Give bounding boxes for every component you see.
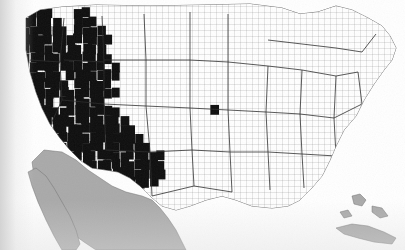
county-cell-shaded [121,116,130,126]
county-cell-shaded [103,89,111,99]
county-cell-shaded [88,61,97,71]
county-cell-shaded [14,124,23,134]
county-cell-shaded [98,26,106,36]
county-cell-shaded [103,159,111,169]
county-cell-shaded [35,44,44,54]
county-cell-shaded [88,52,96,62]
county-cell-shaded [104,54,112,64]
county-cell-shaded [141,178,149,188]
county-cell-shaded [95,105,104,115]
county-cell-shaded [8,125,16,135]
county-cell-shaded [141,169,149,179]
county-cell-shaded [52,79,60,89]
county-cell-shaded [112,159,121,169]
county-cell-shaded [88,161,97,171]
bahamas-islands [352,194,366,206]
county-cell-shaded [8,106,17,116]
county-cell-shaded [15,60,23,70]
county-cell-shaded [38,116,47,126]
county-cell-shaded [13,115,21,125]
county-cell-shaded [43,26,52,36]
county-cell-shaded [112,133,121,143]
county-cell-shaded [38,141,47,151]
county-cell-shaded [44,35,52,45]
county-cell-shaded [21,70,29,80]
county-cell-shaded [135,134,143,144]
county-cell-shaded [113,167,121,177]
county-cell-shaded [22,150,30,160]
county-cell-shaded [82,134,90,144]
county-cell-shaded [58,123,66,133]
county-cell-shaded [66,61,74,71]
county-cell-shaded [20,79,28,89]
county-cell-shaded [23,98,31,108]
county-cell-shaded [23,107,31,117]
county-cell-shaded [88,71,96,81]
bahamas-islands-3 [340,210,352,218]
county-cell-shaded [43,125,51,135]
cuba-landmass [336,224,396,244]
county-cell-shaded [29,26,38,36]
county-cell-shaded [111,114,119,124]
county-cell-shaded [21,34,30,44]
county-cell-shaded [22,115,31,125]
county-cell-shaded [37,125,45,135]
county-cell-shaded [15,70,24,80]
county-cell-shaded [29,96,38,106]
county-cell-shaded [88,35,97,45]
county-cell-shaded [81,114,89,124]
county-cell-shaded [14,81,23,91]
county-cell-shaded [59,132,67,142]
county-cell-shaded [20,170,29,180]
county-cell-shaded [66,70,75,80]
county-cell-shaded [126,141,134,151]
county-cell-shaded [22,87,31,97]
county-cell-shaded [66,106,74,116]
county-cell-shaded [127,125,135,135]
county-cell-shaded [119,177,128,187]
county-cell-shaded [74,9,83,19]
county-cell-shaded [15,151,24,161]
county-cell-shaded [81,123,89,133]
county-cell-shaded [14,141,22,151]
county-cell-shaded [134,160,142,170]
county-cell-shaded [30,62,38,72]
county-cell-shaded [15,54,24,64]
county-cell-shaded [75,124,83,134]
county-cell-shaded [44,8,52,18]
county-cell-shaded [97,133,105,143]
county-cell-shaded [20,62,29,72]
county-cell-shaded [82,7,90,17]
county-cell-shaded [112,71,120,81]
county-choropleth-map-figure [0,0,405,250]
county-cell-shaded [141,160,149,170]
county-cell-shaded [74,25,83,35]
county-cell-shaded [141,151,149,161]
county-cell-shaded [38,132,46,142]
county-cell-shaded [28,124,37,134]
county-cell-shaded [112,88,120,98]
county-cell-shaded [28,116,36,126]
county-cell-shaded [6,52,14,62]
county-cell-shaded [53,18,62,28]
county-cell-shaded [6,71,14,81]
county-cell-shaded [104,106,112,116]
county-cell-shaded [7,87,16,97]
county-cell-shaded [73,33,82,43]
county-cell-shaded [22,134,30,144]
county-cell-shaded [95,141,103,151]
county-cell-shaded [81,78,89,88]
county-cell-shaded [104,35,113,45]
county-cell-shaded [14,98,22,108]
county-cell-shaded [29,107,38,117]
county-cell-shaded [22,123,30,133]
county-cell-shaded [97,45,106,55]
county-cell-shaded [37,61,46,71]
county-cell-shaded [14,133,22,143]
county-cell-shaded [22,143,31,153]
county-cell-shaded [28,16,36,26]
county-cell-shaded [36,97,44,107]
county-cell-shaded [28,132,37,142]
county-cell-shaded [15,25,24,35]
county-cell-shaded [20,158,28,168]
